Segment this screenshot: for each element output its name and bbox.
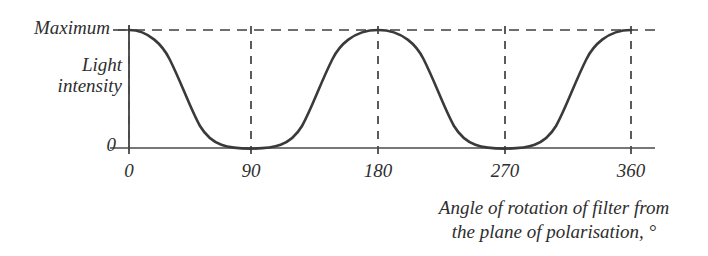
x-tick-label-360: 360 (617, 160, 646, 182)
y-axis-maximum-label: Maximum (34, 17, 110, 38)
x-tick-label-0: 0 (124, 160, 134, 182)
x-tick-label-270: 270 (491, 160, 520, 182)
y-axis-zero-label: 0 (107, 134, 117, 155)
y-axis-title-line2: intensity (58, 75, 122, 96)
x-tick-label-90: 90 (242, 160, 261, 182)
y-axis-title: Light intensity (58, 54, 122, 97)
x-axis-caption: Angle of rotation of filter from the pla… (404, 196, 704, 244)
x-tick-label-180: 180 (364, 160, 393, 182)
chart-figure: Maximum Light intensity 0 0 90 180 270 3… (0, 0, 708, 256)
y-axis-title-line1: Light (58, 54, 122, 75)
intensity-curve (129, 30, 631, 149)
x-axis-caption-line2: the plane of polarisation, ° (404, 220, 704, 244)
x-axis-caption-line1: Angle of rotation of filter from (404, 196, 704, 220)
